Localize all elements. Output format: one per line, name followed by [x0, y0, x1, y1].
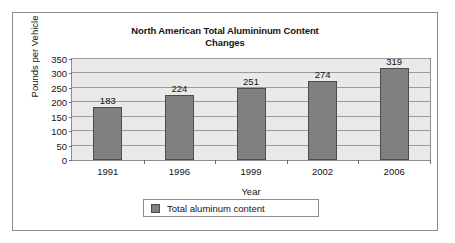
y-axis-tick-label: 50 — [37, 140, 67, 151]
y-axis-tick-mark — [69, 146, 72, 147]
chart-title: North American Total Alumininum Content … — [13, 25, 437, 49]
x-axis-tick-label: 2006 — [364, 166, 424, 177]
y-axis-tick-mark — [69, 102, 72, 103]
x-axis-tick-label: 1999 — [221, 166, 281, 177]
y-axis-tick-label: 350 — [37, 54, 67, 65]
bar: 224 — [165, 95, 194, 160]
x-axis-tick-mark — [358, 160, 359, 164]
x-axis-tick-label: 1996 — [149, 166, 209, 177]
gridline — [72, 58, 430, 59]
bar: 319 — [380, 68, 409, 160]
x-axis-tick-label: 1991 — [78, 166, 138, 177]
bar-value-label: 251 — [243, 76, 259, 87]
y-axis-tick-mark — [69, 131, 72, 132]
y-axis-tick-label: 100 — [37, 126, 67, 137]
chart-frame: North American Total Alumininum Content … — [12, 12, 438, 231]
x-axis-tick-label: 2002 — [293, 166, 353, 177]
chart-title-line-2: Changes — [13, 37, 437, 49]
y-axis-tick-mark — [69, 160, 72, 161]
y-axis-tick-label: 150 — [37, 111, 67, 122]
y-axis-tick-mark — [69, 117, 72, 118]
bar: 183 — [93, 107, 122, 160]
bar: 274 — [308, 81, 337, 160]
gridline — [72, 72, 430, 73]
x-axis-tick-mark — [215, 160, 216, 164]
y-axis-tick-mark — [69, 73, 72, 74]
y-axis-tick-label: 200 — [37, 97, 67, 108]
x-axis-title: Year — [71, 186, 431, 197]
x-axis-tick-mark — [144, 160, 145, 164]
x-axis-tick-mark — [287, 160, 288, 164]
y-axis-tick-mark — [69, 59, 72, 60]
x-axis-tick-mark — [430, 160, 431, 164]
bar-value-label: 319 — [386, 56, 402, 67]
legend-swatch-icon — [151, 204, 160, 213]
y-axis-tick-label: 0 — [37, 155, 67, 166]
bar: 251 — [237, 88, 266, 160]
plot-area: 0501001502002503003501831991224199625119… — [71, 58, 431, 161]
y-axis-tick-label: 250 — [37, 82, 67, 93]
bar-value-label: 183 — [100, 95, 116, 106]
bar-value-label: 224 — [171, 83, 187, 94]
legend-item-label: Total aluminum content — [167, 203, 265, 214]
bar-value-label: 274 — [315, 69, 331, 80]
y-axis-tick-label: 300 — [37, 68, 67, 79]
chart-title-line-1: North American Total Alumininum Content — [131, 25, 318, 36]
y-axis-tick-mark — [69, 88, 72, 89]
chart-legend: Total aluminum content — [143, 199, 319, 217]
